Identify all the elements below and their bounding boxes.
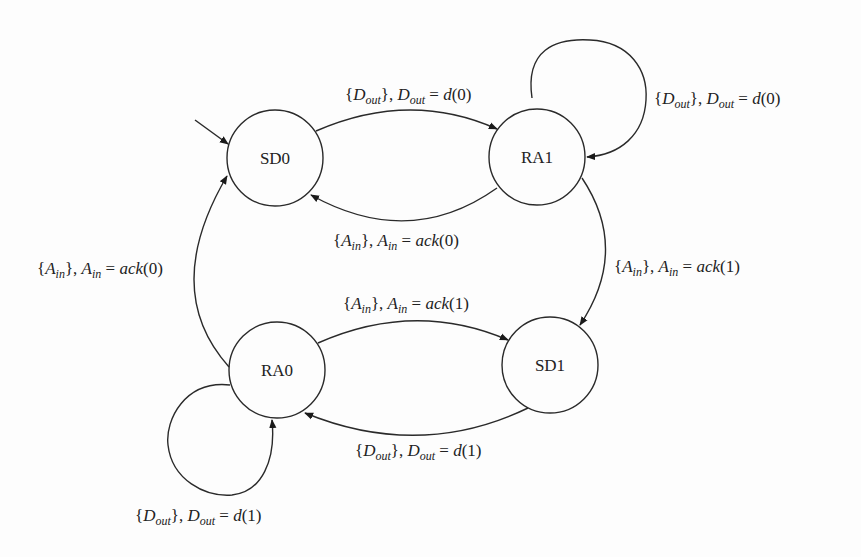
state-label: SD1 bbox=[535, 356, 565, 375]
edge-ra0-self-loop bbox=[168, 385, 273, 496]
state-label: RA0 bbox=[261, 361, 293, 380]
label-value: ack(0) bbox=[119, 259, 162, 278]
edge-sd1-to-ra0 bbox=[305, 408, 528, 435]
edge-ra0-to-sd0 bbox=[194, 176, 229, 367]
label-value: d(0) bbox=[443, 85, 471, 104]
state-ra0: RA0 bbox=[229, 322, 325, 418]
label-sd0-to-ra1: {Dout}, Dout = d(0) bbox=[345, 86, 472, 103]
state-label: SD0 bbox=[260, 149, 290, 168]
label-ra0-self-loop: {Dout}, Dout = d(1) bbox=[135, 507, 262, 524]
edge-ra1-to-sd1 bbox=[580, 178, 606, 325]
state-sd1: SD1 bbox=[502, 317, 598, 413]
label-ra1-self-loop: {Dout}, Dout = d(0) bbox=[654, 90, 781, 107]
state-diagram: SD0 RA1 SD1 RA0 {D bbox=[0, 0, 861, 557]
label-value: d(1) bbox=[233, 506, 261, 525]
edge-ra1-self-loop bbox=[531, 40, 646, 157]
edge-sd0-to-ra1 bbox=[316, 110, 497, 131]
diagram-canvas: SD0 RA1 SD1 RA0 bbox=[0, 0, 861, 557]
label-ra1-to-sd0: {Ain}, Ain = ack(0) bbox=[333, 232, 459, 249]
state-ra1: RA1 bbox=[489, 109, 585, 205]
label-ra0-to-sd1: {Ain}, Ain = ack(1) bbox=[343, 295, 469, 312]
label-value: d(1) bbox=[453, 441, 481, 460]
label-value: ack(1) bbox=[696, 257, 739, 276]
state-sd0: SD0 bbox=[227, 110, 323, 206]
state-label: RA1 bbox=[521, 148, 553, 167]
initial-state-arrow bbox=[195, 120, 228, 144]
label-value: ack(0) bbox=[415, 231, 458, 250]
label-value: ack(1) bbox=[425, 294, 468, 313]
label-ra0-to-sd0: {Ain}, Ain = ack(0) bbox=[37, 260, 163, 277]
label-value: d(0) bbox=[752, 89, 780, 108]
edge-ra1-to-sd0 bbox=[311, 188, 497, 221]
label-ra1-to-sd1: {Ain}, Ain = ack(1) bbox=[614, 258, 740, 275]
label-sd1-to-ra0: {Dout}, Dout = d(1) bbox=[355, 442, 482, 459]
edge-ra0-to-sd1 bbox=[318, 321, 508, 343]
